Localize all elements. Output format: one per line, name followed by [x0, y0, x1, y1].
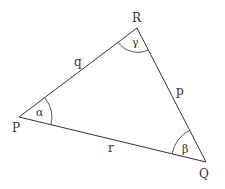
- vertex-q-label: Q: [199, 167, 209, 181]
- side-q-line: [19, 28, 137, 117]
- angle-beta-label: β: [182, 143, 188, 156]
- side-r-label: r: [108, 141, 114, 155]
- angle-gamma-label: γ: [132, 36, 139, 49]
- angle-alpha-label: α: [36, 106, 44, 119]
- vertex-p-label: P: [12, 121, 20, 135]
- triangle-diagram: R P Q q p r α γ β: [0, 0, 225, 189]
- side-p-label: p: [176, 84, 184, 98]
- side-p-line: [137, 28, 206, 162]
- vertex-r-label: R: [132, 11, 142, 25]
- side-q-label: q: [74, 55, 82, 69]
- angle-alpha-arc: [45, 98, 52, 125]
